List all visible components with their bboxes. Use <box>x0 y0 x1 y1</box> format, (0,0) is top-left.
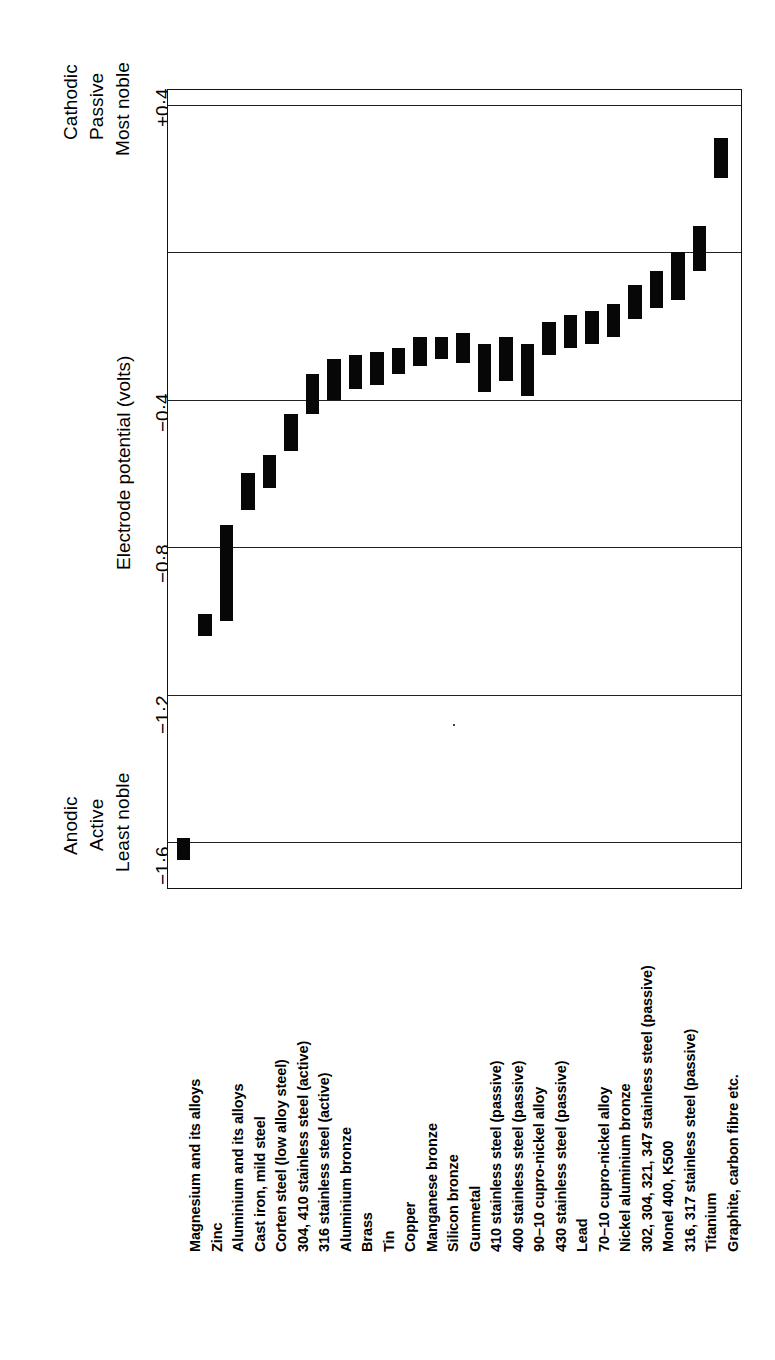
category-label-magnesium-and-its-alloys: Magnesium and its alloys <box>187 1079 203 1252</box>
bar-430-stainless-steel-passive <box>542 322 555 355</box>
category-label-aluminium-and-its-alloys: Aluminium and its alloys <box>230 1084 246 1252</box>
bar-302-304-321-347-stainless-steel-passive <box>628 285 641 318</box>
bar-aluminium-and-its-alloys <box>220 525 233 621</box>
category-label-zinc: Zinc <box>209 1223 225 1252</box>
gridline-0 <box>168 252 741 253</box>
category-label-430-stainless-steel-passive: 430 stainless steel (passive) <box>553 1061 569 1252</box>
anodic-label: Anodic <box>60 796 82 855</box>
bar-316-317-stainless-steel-passive <box>671 252 684 300</box>
category-label-90-10-cupro-nickel-alloy: 90–10 cupro-nickel alloy <box>531 1087 547 1252</box>
category-label-lead: Lead <box>574 1219 590 1252</box>
bar-titanium <box>693 226 706 270</box>
bar-tin <box>370 352 383 385</box>
category-label-copper: Copper <box>402 1202 418 1252</box>
category-label-corten-steel-low-alloy-steel: Corten steel (low alloy steel) <box>273 1059 289 1252</box>
passive-label: Passive <box>86 73 108 140</box>
category-label-316-stainless-steel-active: 316 stainless steel (active) <box>316 1073 332 1252</box>
bar-304-410-stainless-steel-active <box>284 414 297 451</box>
bar-copper <box>392 348 405 374</box>
category-label-304-410-stainless-steel-active: 304, 410 stainless steel (active) <box>295 1041 311 1252</box>
y-axis-title: Electrode potential (volts) <box>113 356 135 570</box>
category-label-titanium: Titanium <box>703 1193 719 1252</box>
bar-brass <box>349 355 362 388</box>
gridline-neg0-8 <box>168 547 741 548</box>
bar-corten-steel-low-alloy-steel <box>263 455 276 488</box>
bar-zinc <box>198 614 211 636</box>
category-label-manganese-bronze: Manganese bronze <box>424 1123 440 1252</box>
category-label-graphite-carbon-fibre-etc: Graphite, carbon fibre etc. <box>725 1074 741 1252</box>
bar-nickel-aluminium-bronze <box>607 304 620 337</box>
category-label-tin: Tin <box>381 1231 397 1252</box>
bar-90-10-cupro-nickel-alloy <box>521 344 534 396</box>
category-label-316-317-stainless-steel-passive: 316, 317 stainless steel (passive) <box>682 1029 698 1252</box>
gridline-neg1-2 <box>168 695 741 696</box>
bar-316-stainless-steel-active <box>306 374 319 415</box>
least-noble-label: Least noble <box>112 773 134 872</box>
category-label-70-10-cupro-nickel-alloy: 70–10 cupro-nickel alloy <box>596 1087 612 1252</box>
category-label-nickel-aluminium-bronze: Nickel aluminium bronze <box>617 1083 633 1252</box>
bar-400-stainless-steel-passive <box>499 337 512 381</box>
bar-monel-400-k500 <box>650 271 663 308</box>
category-label-monel-400-k500: Monel 400, K500 <box>660 1141 676 1252</box>
gridline-neg0-4 <box>168 400 741 401</box>
bar-lead <box>564 315 577 348</box>
category-label-400-stainless-steel-passive: 400 stainless steel (passive) <box>510 1061 526 1252</box>
bar-graphite-carbon-fibre-etc <box>714 138 727 179</box>
active-label: Active <box>86 799 108 851</box>
bar-manganese-bronze <box>413 337 426 366</box>
bar-cast-iron-mild-steel <box>241 473 254 510</box>
bar-gunmetal <box>456 333 469 362</box>
bar-410-stainless-steel-passive <box>478 344 491 392</box>
plot-area <box>167 89 742 889</box>
category-label-410-stainless-steel-passive: 410 stainless steel (passive) <box>488 1061 504 1252</box>
bar-silicon-bronze <box>435 337 448 359</box>
gridline-neg1-6 <box>168 842 741 843</box>
bar-70-10-cupro-nickel-alloy <box>585 311 598 344</box>
cathodic-label: Cathodic <box>60 64 82 140</box>
category-label-cast-iron-mild-steel: Cast iron, mild steel <box>252 1116 268 1252</box>
bar-aluminium-bronze <box>327 359 340 400</box>
category-label-aluminium-bronze: Aluminium bronze <box>338 1127 354 1252</box>
print-artifact-dot <box>453 724 455 726</box>
category-label-302-304-321-347-stainless-steel-passive: 302, 304, 321, 347 stainless steel (pass… <box>639 965 655 1252</box>
category-label-silicon-bronze: Silicon bronze <box>445 1154 461 1252</box>
bar-magnesium-and-its-alloys <box>177 838 190 860</box>
most-noble-label: Most noble <box>112 62 134 156</box>
category-label-brass: Brass <box>359 1212 375 1252</box>
category-label-gunmetal: Gunmetal <box>467 1186 483 1252</box>
gridline-0neg4 <box>168 105 741 106</box>
